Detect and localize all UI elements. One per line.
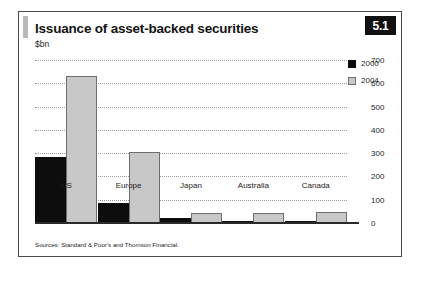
y-axis-tick-label: 500 (371, 102, 384, 111)
bar-europe-2000[interactable] (98, 203, 129, 223)
y-axis-tick-label: 0 (371, 219, 375, 228)
x-axis-label-japan: Japan (160, 181, 222, 190)
legend-label: 2004 (361, 76, 379, 85)
x-axis-label-us: US (35, 181, 97, 190)
x-axis-label-canada: Canada (285, 181, 347, 190)
page-title: Issuance of asset-backed securities (35, 21, 258, 36)
x-axis-label-australia: Australia (222, 181, 284, 190)
accent-mark (23, 16, 28, 38)
figure-number-badge: 5.1 (365, 16, 396, 35)
legend-swatch-2000-icon (348, 60, 356, 68)
bar-us-2004[interactable] (66, 76, 97, 223)
x-axis-line (35, 222, 359, 224)
bar-group-canada (285, 60, 347, 223)
legend-swatch-2004-icon (348, 77, 356, 85)
y-axis-tick-label: 100 (371, 195, 384, 204)
bar-group-australia (222, 60, 284, 223)
bar-group-us (35, 60, 97, 223)
source-note: Sources: Standard & Poor's and Thomson F… (35, 241, 179, 248)
chart-plot-area (35, 60, 347, 223)
chart-legend: 20002004 (348, 57, 379, 91)
bar-group-europe (98, 60, 160, 223)
legend-label: 2000 (361, 59, 379, 68)
chart-units-subtitle: $bn (35, 39, 49, 49)
y-axis-tick-label: 400 (371, 125, 384, 134)
y-axis-tick-label: 300 (371, 149, 384, 158)
legend-item-2004[interactable]: 2004 (348, 74, 379, 87)
figure-panel: Issuance of asset-backed securities $bn … (18, 11, 402, 257)
legend-item-2000[interactable]: 2000 (348, 57, 379, 70)
x-axis-label-europe: Europe (97, 181, 159, 190)
y-axis-tick-label: 200 (371, 172, 384, 181)
bar-group-japan (160, 60, 222, 223)
